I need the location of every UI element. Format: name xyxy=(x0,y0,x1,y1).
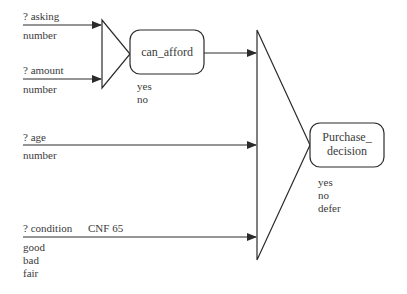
input-condition-cnf: CNF 65 xyxy=(88,222,123,234)
purchase-decision-label-line2: decision xyxy=(310,144,384,158)
can-afford-label: can_afford xyxy=(130,45,204,59)
input-condition-name: ? condition xyxy=(23,222,72,234)
purchase-combiner-triangle xyxy=(257,30,310,260)
input-amount-name: ? amount xyxy=(23,64,64,76)
input-asking-type: number xyxy=(23,29,57,41)
input-asking-name: ? asking xyxy=(23,10,59,22)
input-amount-type: number xyxy=(23,83,57,95)
input-condition-value: good xyxy=(23,241,45,253)
can-afford-outcome: no xyxy=(137,93,148,105)
purchase-decision-outcome: no xyxy=(318,189,329,201)
purchase-decision-outcome: defer xyxy=(318,202,341,214)
input-age-type: number xyxy=(23,149,57,161)
can-afford-outcome: yes xyxy=(137,80,152,92)
can-afford-combiner-triangle xyxy=(102,20,130,88)
purchase-decision-outcome: yes xyxy=(318,176,333,188)
purchase-decision-label-line1: Purchase_ xyxy=(310,130,384,144)
input-condition-value: bad xyxy=(23,254,39,266)
input-age-name: ? age xyxy=(23,131,46,143)
input-condition-value: fair xyxy=(23,267,38,279)
